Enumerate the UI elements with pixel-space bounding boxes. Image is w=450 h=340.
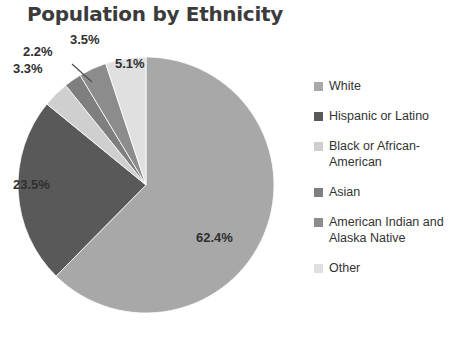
legend-item-label: White [329, 78, 361, 94]
legend-item-label: Other [329, 260, 360, 276]
legend-swatch-icon [314, 112, 323, 121]
legend-item[interactable]: Hispanic or Latino [314, 108, 450, 124]
legend-swatch-icon [314, 264, 323, 273]
legend-swatch-icon [314, 218, 323, 227]
slice-label-american-indian: 3.5% [70, 32, 100, 47]
legend-swatch-icon [314, 82, 323, 91]
legend-item[interactable]: Other [314, 260, 450, 276]
slice-label-other: 5.1% [115, 56, 145, 71]
legend-swatch-icon [314, 142, 323, 151]
legend-item-label: Asian [329, 184, 360, 200]
pie-plot-area: 62.4% 23.5% 3.3% 2.2% 3.5% 5.1% [0, 46, 300, 331]
slice-label-black: 3.3% [13, 61, 43, 76]
legend-item[interactable]: Black or African-American [314, 138, 450, 170]
legend-swatch-icon [314, 188, 323, 197]
legend-item-label: American Indian and Alaska Native [329, 214, 450, 246]
legend-item-label: Black or African-American [329, 138, 450, 170]
legend-item-label: Hispanic or Latino [329, 108, 429, 124]
slice-label-white: 62.4% [196, 230, 233, 245]
pie-chart-figure: Population by Ethnicity 62.4% 23.5% 3.3%… [0, 0, 450, 340]
chart-title: Population by Ethnicity [0, 2, 310, 26]
legend-item[interactable]: American Indian and Alaska Native [314, 214, 450, 246]
legend-item[interactable]: White [314, 78, 450, 94]
pie-slices-group [18, 57, 274, 313]
chart-legend: WhiteHispanic or LatinoBlack or African-… [314, 78, 450, 290]
slice-label-asian: 2.2% [23, 44, 53, 59]
legend-item[interactable]: Asian [314, 184, 450, 200]
slice-label-hispanic: 23.5% [13, 177, 50, 192]
